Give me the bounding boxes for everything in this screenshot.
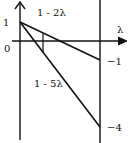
minus-one-label: −1: [107, 56, 122, 67]
diagram-canvas: 1 0 λ 1 - 2λ 1 - 5λ −1 −4: [0, 0, 139, 143]
line-1-minus-2lambda-label: 1 - 2λ: [37, 7, 66, 18]
origin-label: 0: [4, 43, 10, 54]
minus-four-label: −4: [107, 122, 122, 133]
y-tick-one-label: 1: [3, 17, 9, 28]
line-1-minus-5lambda-label: 1 - 5λ: [34, 78, 63, 89]
x-axis-arrow-icon: [118, 37, 127, 45]
x-axis-label: λ: [117, 24, 124, 35]
line-1-minus-5lambda: [20, 22, 100, 127]
